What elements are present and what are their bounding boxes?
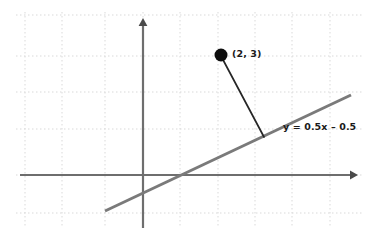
line-equation-label: y = 0.5x – 0.5 xyxy=(283,121,356,132)
perpendicular-segment xyxy=(221,56,264,137)
x-axis-arrow-icon xyxy=(350,171,358,180)
point-coordinate-label: (2, 3) xyxy=(232,48,261,59)
grid-lines xyxy=(16,12,362,228)
coordinate-plane-svg xyxy=(0,0,371,234)
grid-lines-vertical xyxy=(25,12,330,228)
y-axis-arrow-icon xyxy=(139,18,148,26)
graph-figure: (2, 3) y = 0.5x – 0.5 xyxy=(0,0,371,234)
data-point-marker xyxy=(215,49,228,62)
